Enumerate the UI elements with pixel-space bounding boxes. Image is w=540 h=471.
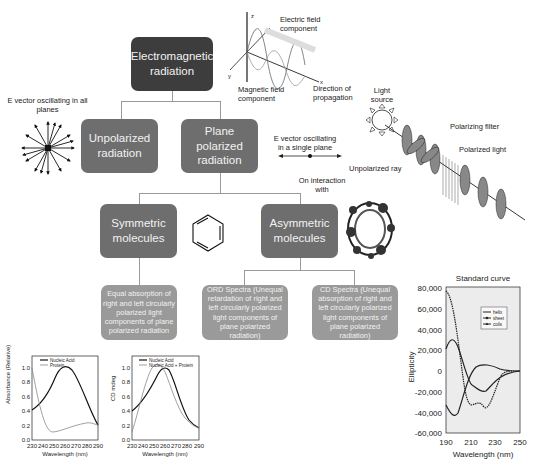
svg-text:240: 240 (38, 443, 49, 449)
svg-text:60,000: 60,000 (418, 305, 443, 314)
svg-text:210: 210 (464, 438, 478, 447)
svg-text:0.4: 0.4 (122, 408, 131, 414)
connector-em-down (172, 91, 173, 101)
svg-text:20,000: 20,000 (418, 346, 443, 355)
absorbance-legend-2: Protein (50, 363, 65, 368)
standard-curve-title: Standard curve (456, 274, 511, 283)
box-symmetric-label: Symmetric molecules (100, 216, 177, 246)
cd-ylabel: CD mdeg (110, 376, 116, 401)
label-e-vector-single-plane: E vector oscillating in a single plane (270, 134, 340, 152)
connector-plane-down (220, 173, 221, 193)
svg-text:230: 230 (27, 443, 38, 449)
svg-text:260: 260 (160, 443, 171, 449)
light-source-icon (372, 110, 392, 130)
svg-text:1.0: 1.0 (22, 365, 31, 371)
svg-text:z: z (251, 13, 254, 19)
box-plane-polarized-label: Plane polarized radiation (181, 124, 258, 169)
svg-text:270: 270 (71, 443, 82, 449)
connector-ord-cd-horizontal (244, 270, 355, 271)
legend-sheet: sheet (493, 316, 505, 321)
label-on-interaction: On interaction with (292, 176, 352, 194)
cd-xlabel: Wavelength (nm) (142, 451, 187, 457)
svg-text:-20,000: -20,000 (415, 388, 443, 397)
svg-text:270: 270 (171, 443, 182, 449)
svg-text:260: 260 (60, 443, 71, 449)
svg-text:240: 240 (138, 443, 149, 449)
cd-legend-2: Nucleic Acid + Protein (149, 363, 193, 368)
connector-asym-down (300, 258, 301, 270)
absorbance-xlabel: Wavelength (nm) (42, 451, 87, 457)
connector-unpol-up (121, 101, 122, 119)
connector-sym-down (139, 258, 140, 285)
svg-text:x: x (320, 79, 323, 85)
box-plane-polarized-radiation: Plane polarized radiation (181, 119, 258, 173)
box-electromagnetic-label: Electromagnetic radiation (131, 49, 213, 79)
box-asymmetric-label: Asymmetric molecules (261, 216, 338, 246)
svg-text:190: 190 (439, 438, 453, 447)
svg-text:250: 250 (149, 443, 160, 449)
em-wave-diagram: z y x (225, 10, 325, 100)
connector-ord-up (244, 270, 245, 285)
svg-text:230: 230 (127, 443, 138, 449)
box-equal-absorption-label: Equal absorption of right and left circu… (103, 289, 175, 335)
standard-curve-chart: Standard curve 80,00060,00040,000 20,000… (380, 265, 540, 471)
box-ord-label: ORD Spectra (Unequal retardation of righ… (204, 285, 286, 341)
cd-mdeg-chart: CD mdeg 0.00.20.4 0.60.81.0 230240250 26… (105, 350, 215, 471)
svg-text:280: 280 (82, 443, 93, 449)
svg-text:1.0: 1.0 (122, 365, 131, 371)
svg-text:0.8: 0.8 (22, 379, 31, 385)
connector-cd-up (354, 270, 355, 285)
legend-helix: helix (493, 310, 503, 315)
connector-em-horizontal (121, 101, 221, 102)
svg-text:280: 280 (182, 443, 193, 449)
box-equal-absorption: Equal absorption of right and left circu… (101, 285, 177, 340)
single-plane-arrow-icon (278, 152, 342, 160)
svg-text:-40,000: -40,000 (415, 409, 443, 418)
svg-text:0.6: 0.6 (122, 394, 131, 400)
box-asymmetric-molecules: Asymmetric molecules (261, 204, 338, 258)
absorbance-chart: Absorbance (Relative) 0.00.20.4 0.60.81.… (0, 350, 110, 471)
svg-text:0.8: 0.8 (122, 379, 131, 385)
legend-coils: coils (493, 322, 503, 327)
svg-text:250: 250 (49, 443, 60, 449)
svg-text:250: 250 (513, 438, 527, 447)
box-unpolarized-radiation: Unpolarized radiation (81, 119, 158, 173)
connector-sym-asym-horizontal (139, 193, 300, 194)
absorbance-ylabel: Absorbance (Relative) (5, 345, 11, 404)
svg-text:0.2: 0.2 (122, 423, 131, 429)
box-unpolarized-label: Unpolarized radiation (81, 131, 158, 161)
svg-text:80,000: 80,000 (418, 284, 443, 293)
svg-text:0.4: 0.4 (22, 408, 31, 414)
svg-text:290: 290 (194, 443, 205, 449)
svg-text:290: 290 (93, 443, 104, 449)
svg-text:-60,000: -60,000 (415, 429, 443, 438)
protein-structure-icon (343, 198, 398, 260)
svg-text:y: y (228, 73, 231, 79)
connector-plane-up (220, 101, 221, 119)
standard-curve-xlabel: Wavelength (nm) (453, 450, 514, 459)
svg-text:230: 230 (488, 438, 502, 447)
standard-curve-ylabel: Ellipticity (407, 351, 416, 382)
multi-direction-arrows-icon (18, 118, 78, 178)
svg-text:40,000: 40,000 (418, 326, 443, 335)
svg-text:0: 0 (438, 367, 443, 376)
svg-text:0.2: 0.2 (22, 423, 31, 429)
box-symmetric-molecules: Symmetric molecules (100, 204, 177, 258)
benzene-ring-icon (190, 213, 226, 253)
label-e-vector-all-planes: E vector oscillating in all planes (5, 96, 90, 114)
box-electromagnetic-radiation: Electromagnetic radiation (131, 37, 213, 91)
box-ord-spectra: ORD Spectra (Unequal retardation of righ… (202, 285, 288, 340)
svg-text:0.6: 0.6 (22, 394, 31, 400)
